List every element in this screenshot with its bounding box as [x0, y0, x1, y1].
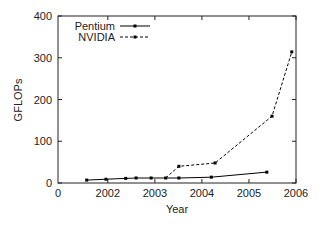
- series-line-pentium: [87, 172, 267, 180]
- data-point-marker: [271, 115, 274, 118]
- data-point-marker: [177, 165, 180, 168]
- legend-label-nvidia: NVIDIA: [78, 31, 115, 43]
- data-point-marker: [164, 176, 167, 179]
- series-group: [85, 50, 293, 181]
- legend-marker: [134, 36, 137, 39]
- data-point-marker: [214, 161, 217, 164]
- x-tick-label: 2005: [237, 187, 261, 199]
- y-tick-label: 0: [46, 177, 52, 189]
- y-axis-title: GFLOPs: [12, 78, 24, 121]
- data-point-marker: [150, 176, 153, 179]
- legend-marker: [134, 25, 137, 28]
- data-point-marker: [104, 178, 107, 181]
- y-tick-label: 200: [34, 94, 52, 106]
- data-point-marker: [177, 176, 180, 179]
- y-tick-label: 400: [34, 10, 52, 22]
- data-point-marker: [210, 176, 213, 179]
- x-tick-label: 0: [55, 187, 61, 199]
- data-point-marker: [135, 176, 138, 179]
- data-point-marker: [265, 171, 268, 174]
- x-tick-label: 2006: [284, 187, 308, 199]
- y-tick-label: 300: [34, 52, 52, 64]
- data-point-marker: [290, 50, 293, 53]
- x-tick-label: 2004: [190, 187, 214, 199]
- x-axis-title: Year: [166, 203, 189, 215]
- legend: PentiumNVIDIA: [75, 20, 150, 43]
- data-point-marker: [85, 179, 88, 182]
- x-tick-label: 2003: [143, 187, 167, 199]
- line-chart: 0100200300400020022003200420052006 Penti…: [0, 0, 321, 226]
- x-tick-label: 2002: [96, 187, 120, 199]
- data-point-marker: [124, 177, 127, 180]
- y-tick-label: 100: [34, 135, 52, 147]
